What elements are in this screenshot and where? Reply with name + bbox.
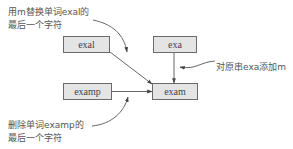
node-exal-label: exal <box>78 40 95 50</box>
annotation-delete-line1: 删除单词examp的 <box>8 119 84 132</box>
annotation-replace-line2: 最后一个字符 <box>8 19 90 32</box>
annotation-replace-line1: 用m替换单词exal的 <box>8 6 90 19</box>
node-exal: exal <box>63 36 110 53</box>
pointer-append-icon <box>180 61 215 68</box>
annotation-delete-line2: 最后一个字符 <box>8 132 84 145</box>
node-exa: exa <box>153 36 197 53</box>
pointer-delete-icon <box>92 97 128 126</box>
node-examp: examp <box>63 83 112 100</box>
annotation-append-line1: 对原串exa添加m <box>216 61 286 74</box>
node-examp-label: examp <box>74 87 101 97</box>
node-exam-label: exam <box>164 87 186 97</box>
edit-distance-diagram: exal exa examp exam 用m替换单词exal的 最后一个字符 对… <box>0 0 293 149</box>
node-exam: exam <box>152 83 198 100</box>
annotation-append: 对原串exa添加m <box>216 61 286 74</box>
annotation-delete: 删除单词examp的 最后一个字符 <box>8 119 84 145</box>
annotation-replace: 用m替换单词exal的 最后一个字符 <box>8 6 90 32</box>
node-exa-label: exa <box>168 40 182 50</box>
edge-exal-to-exam <box>110 52 152 84</box>
